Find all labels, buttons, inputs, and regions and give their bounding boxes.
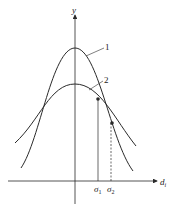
x-axis-label: di (160, 177, 167, 188)
curve-1 (21, 48, 133, 171)
y-axis-label: y (71, 5, 76, 15)
sigma-1-label: σ1 (94, 184, 101, 195)
curve-2 (15, 84, 136, 146)
point-sigma-1 (96, 97, 100, 101)
bell-curve-diagram: y 1 2 di σ1 σ2 (0, 0, 177, 215)
curve-1-leader (86, 48, 104, 56)
sigma-2-label: σ2 (107, 184, 114, 195)
point-sigma-2 (110, 121, 114, 125)
curve-2-label: 2 (104, 75, 109, 85)
curve-1-label: 1 (105, 42, 110, 52)
